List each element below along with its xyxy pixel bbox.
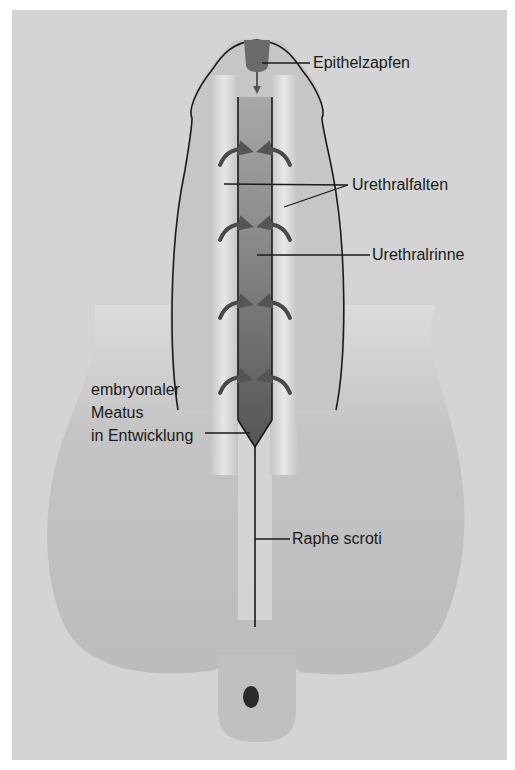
label-urethralrinne: Urethralrinne (372, 246, 464, 264)
label-raphe-scroti: Raphe scroti (292, 530, 382, 548)
label-epithelzapfen: Epithelzapfen (313, 54, 410, 72)
label-embryonaler-meatus: embryonaler Meatus in Entwicklung (91, 378, 193, 447)
anatomy-illustration (0, 0, 515, 770)
label-urethralfalten: Urethralfalten (352, 176, 448, 194)
perineum-lobe (218, 655, 296, 742)
anal-pit-icon (243, 686, 259, 708)
